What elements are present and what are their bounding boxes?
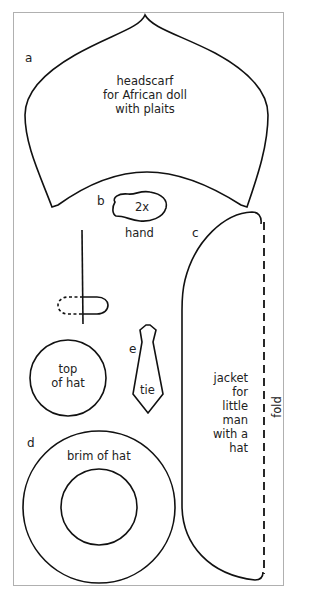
- piece-letter-d: d: [27, 437, 35, 449]
- piece-letter-e: e: [129, 343, 136, 355]
- headscarf-label-line-1: headscarf: [95, 74, 195, 88]
- jacket-label-line-1: jacket: [198, 371, 248, 385]
- jacket-label: jacket for little man with a hat: [198, 371, 248, 455]
- headscarf-label: headscarf for African doll with plaits: [95, 74, 195, 116]
- jacket-label-line-3: little: [198, 399, 248, 413]
- hat-brim-label: brim of hat: [67, 449, 131, 463]
- jacket-label-line-6: hat: [198, 441, 248, 455]
- headscarf-label-line-3: with plaits: [95, 102, 195, 116]
- tie-string-loop-solid: [83, 297, 108, 314]
- jacket-label-line-2: for: [198, 385, 248, 399]
- hat-top-label-line-2: of hat: [38, 376, 98, 390]
- hat-top-label: top of hat: [38, 362, 98, 390]
- piece-letter-c: c: [192, 227, 199, 239]
- piece-letter-b: b: [97, 195, 105, 207]
- tie-string-loop-dashed: [58, 297, 83, 314]
- jacket-label-line-4: man: [198, 413, 248, 427]
- hand-multiplier-label: 2x: [135, 200, 149, 214]
- hat-brim-inner-circle: [61, 469, 137, 545]
- jacket-label-line-5: with a: [198, 427, 248, 441]
- piece-letter-a: a: [25, 52, 32, 64]
- tie-outline: [133, 325, 163, 413]
- hand-label: hand: [125, 226, 154, 240]
- hat-top-label-line-1: top: [38, 362, 98, 376]
- tie-string-line: [82, 230, 83, 324]
- tie-label: tie: [140, 383, 155, 397]
- headscarf-label-line-2: for African doll: [95, 88, 195, 102]
- fold-label: fold: [270, 396, 284, 418]
